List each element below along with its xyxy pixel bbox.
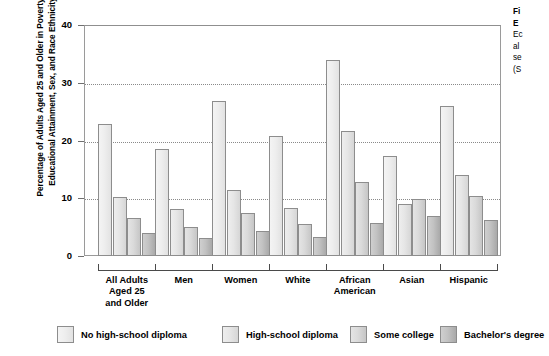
category-label-line: American [315,286,395,297]
bar-group [440,25,498,256]
bar [398,204,412,256]
bar-group [326,25,384,256]
bar-group [212,25,270,256]
bar [341,131,355,256]
bar [484,220,498,256]
legend-swatch [222,326,239,343]
caption-line: al [513,41,549,53]
legend-swatch [440,326,457,343]
bar [355,182,369,256]
category-bracket [440,264,498,271]
y-axis-title: Percentage of Adults Aged 25 and Older i… [35,0,58,217]
bar [127,218,141,256]
y-tick-label: 30 [46,78,72,88]
category-label-line: and Older [87,298,167,309]
bar [313,237,327,256]
legend-swatch [350,326,367,343]
legend-item[interactable]: No high-school diploma [57,326,187,343]
bar [256,231,270,256]
category-label-line: Aged 25 [87,286,167,297]
y-tick-label: 20 [46,136,72,146]
legend-label: No high-school diploma [81,330,187,340]
y-tick-mark [78,256,84,257]
bar [241,213,255,256]
legend-item[interactable]: Bachelor's degree [440,326,544,343]
bar [469,196,483,256]
category-bracket [212,264,270,271]
caption-line: se [513,52,549,64]
category-label: Hispanic [429,275,509,286]
bar [155,149,169,256]
bar [284,208,298,257]
bar-group [98,25,156,256]
legend-label: Bachelor's degree [464,330,544,340]
y-tick-label: 10 [46,193,72,203]
legend-item[interactable]: High-school diploma [222,326,338,343]
bar [113,197,127,256]
bar [455,175,469,256]
bar [269,136,283,256]
bar [427,216,441,256]
figure-caption: FiEEcalse(S [513,6,549,76]
legend-item[interactable]: Some college [350,326,434,343]
legend-label: High-school diploma [246,330,338,340]
bar [298,224,312,256]
caption-line: Fi [513,6,549,18]
bar [98,124,112,256]
legend-label: Some college [374,330,434,340]
category-bracket [326,264,384,271]
bar [412,199,426,256]
bar [184,227,198,256]
category-label-line: Hispanic [429,275,509,286]
caption-line: E [513,18,549,30]
bar [227,190,241,256]
bar [370,223,384,256]
bar-groups [84,25,501,256]
category-bracket [98,264,156,271]
bar [170,209,184,256]
category-bracket [383,264,441,271]
y-tick-label: 40 [46,20,72,30]
category-bracket [269,264,327,271]
bar-group [155,25,213,256]
caption-line: Ec [513,29,549,41]
caption-line: (S [513,64,549,76]
bar [326,60,340,256]
bar [142,233,156,256]
bar-group [269,25,327,256]
bar [212,101,226,256]
bar-group [383,25,441,256]
chart-legend: No high-school diplomaHigh-school diplom… [0,326,535,356]
bar [440,106,454,256]
y-tick-label: 0 [46,251,72,261]
legend-swatch [57,326,74,343]
bar [383,156,397,256]
category-bracket [155,264,213,271]
bar [199,238,213,256]
